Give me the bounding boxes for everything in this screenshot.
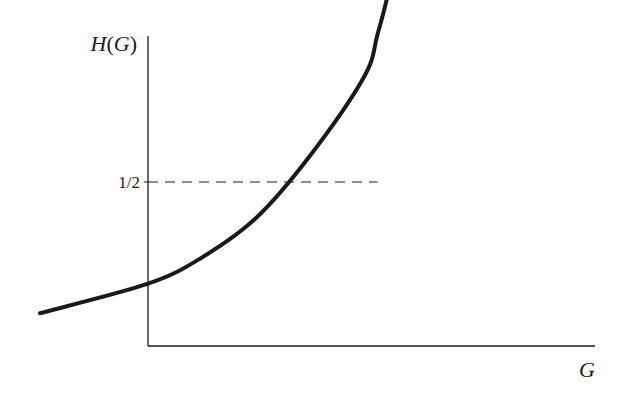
y-label-arg: G — [114, 31, 130, 56]
y-tick-label-half: 1/2 — [118, 173, 140, 192]
chart: H(G) 1/2 G — [0, 0, 624, 399]
y-label-func: H — [90, 31, 108, 56]
y-axis-label: H(G) — [90, 31, 137, 56]
y-label-close: ) — [130, 31, 137, 56]
y-label-open: ( — [106, 31, 113, 56]
x-axis-label: G — [579, 357, 595, 382]
